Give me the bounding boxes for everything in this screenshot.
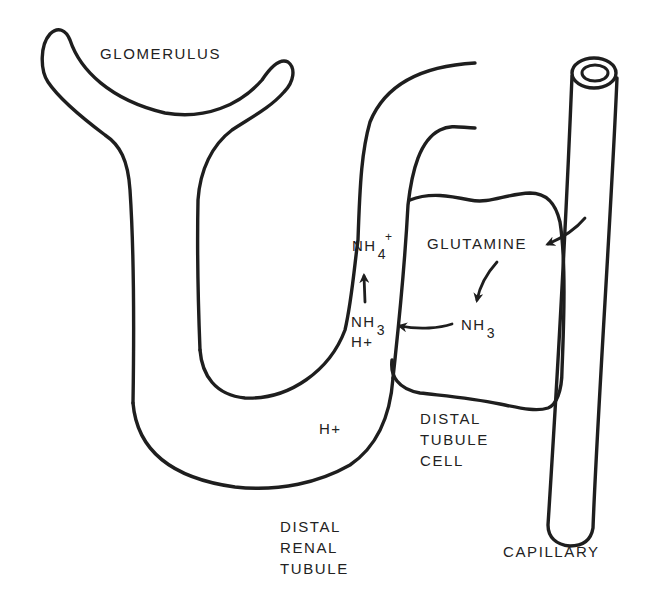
curved-arrow-icon (477, 262, 497, 300)
formula-subscript: 4 (378, 246, 387, 262)
formula-superscript: + (385, 230, 394, 244)
nh4-plus-label: NH4+ (352, 237, 387, 254)
formula-subscript: 3 (487, 325, 496, 341)
formula-base: NH (351, 313, 376, 330)
label-line: CELL (420, 450, 489, 471)
arrow-up-icon (364, 276, 365, 302)
h-plus-lumen-upper: H+ (351, 333, 374, 350)
label-line: TUBULE (420, 429, 489, 450)
label-line: DISTAL (420, 408, 489, 429)
label-line: RENAL (280, 537, 349, 558)
distal-tubule-cell-outline (392, 193, 564, 410)
capillary-lumen (582, 65, 608, 81)
label-line: TUBULE (280, 558, 349, 579)
diagram-canvas: GLOMERULUS DISTAL RENAL TUBULE DISTAL TU… (0, 0, 652, 608)
glomerulus-label: GLOMERULUS (100, 43, 221, 64)
nh3-lumen-label: NH3 (351, 313, 386, 330)
formula-subscript: 3 (377, 322, 386, 338)
distal-renal-tubule-label: DISTAL RENAL TUBULE (280, 516, 349, 579)
capillary-label: CAPILLARY (503, 541, 600, 562)
formula-base: NH (352, 237, 377, 254)
h-plus-lumen-lower: H+ (319, 420, 342, 437)
tubule-right-wall (393, 127, 475, 378)
formula-base: NH (461, 316, 486, 333)
nh3-cell-label: NH3 (461, 316, 496, 333)
capillary-tube (548, 76, 617, 546)
glomerulus-outline (42, 30, 293, 403)
distal-tubule-cell-label: DISTAL TUBULE CELL (420, 408, 489, 471)
tubule-outer-wall (133, 378, 393, 488)
tubule-inner-wall (200, 63, 475, 398)
label-line: DISTAL (280, 516, 349, 537)
arrow-left-icon (400, 324, 452, 328)
glutamine-label: GLUTAMINE (427, 235, 527, 252)
